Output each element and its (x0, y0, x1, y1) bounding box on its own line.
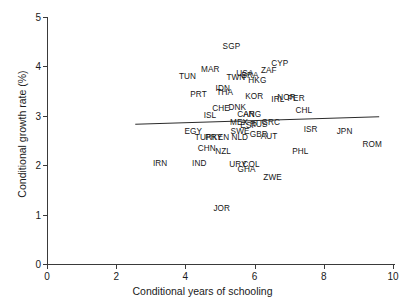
x-tick-mark (393, 265, 394, 269)
data-point-label: ZAF (261, 66, 277, 75)
data-point-label: HKG (248, 76, 266, 85)
y-tick-label: 3 (29, 110, 41, 121)
y-tick-mark (43, 116, 47, 117)
y-tick-label: 5 (29, 12, 41, 23)
x-tick-label: 4 (183, 271, 189, 282)
data-point-label: ISL (204, 111, 217, 120)
y-tick-label: 4 (29, 61, 41, 72)
x-tick-mark (255, 265, 256, 269)
x-axis-label: Conditional years of schooling (0, 285, 405, 297)
data-point-label: TWN (226, 72, 245, 81)
y-tick-mark (43, 66, 47, 67)
y-tick-label: 0 (29, 259, 41, 270)
data-point-label: JPN (337, 127, 353, 136)
data-point-label: KOR (245, 92, 263, 101)
x-tick-mark (116, 265, 117, 269)
y-tick-mark (43, 17, 47, 18)
y-tick-label: 2 (29, 160, 41, 171)
data-point-label: MAR (201, 64, 220, 73)
x-tick-label: 6 (252, 271, 258, 282)
data-point-label: AUT (261, 132, 278, 141)
x-tick-label: 2 (113, 271, 119, 282)
y-axis-line (47, 17, 48, 265)
data-point-label: RUS (250, 120, 268, 129)
y-tick-mark (43, 264, 47, 265)
y-tick-label: 1 (29, 209, 41, 220)
plot-area: 0246810 012345 SGPCYPMARZAFUSATUNBRATWNH… (0, 0, 405, 302)
data-point-label: NZL (215, 146, 231, 155)
x-tick-mark (324, 265, 325, 269)
x-tick-label: 8 (321, 271, 327, 282)
data-point-label: CHL (295, 105, 312, 114)
data-point-label: ZWE (263, 173, 282, 182)
x-tick-label: 10 (387, 271, 398, 282)
x-tick-label: 0 (44, 271, 50, 282)
data-point-label: IRL (271, 94, 284, 103)
y-tick-mark (43, 165, 47, 166)
y-axis-label: Conditional growth rate (%) (16, 49, 28, 219)
data-point-label: CHN (198, 143, 216, 152)
x-tick-mark (47, 265, 48, 269)
data-point-label: TUN (179, 72, 196, 81)
x-tick-mark (185, 265, 186, 269)
data-point-label: ROM (363, 140, 382, 149)
data-point-label: THA (217, 87, 234, 96)
data-point-label: PRT (190, 89, 207, 98)
data-point-label: PHL (292, 147, 308, 156)
data-point-label: KEN (212, 133, 229, 142)
data-point-label: ISR (304, 125, 318, 134)
data-point-label: IND (192, 158, 206, 167)
data-point-label: NLD (231, 132, 248, 141)
y-tick-mark (43, 215, 47, 216)
data-point-label: GHA (238, 165, 256, 174)
x-axis-line (47, 264, 395, 265)
scatter-plot-figure: 0246810 012345 SGPCYPMARZAFUSATUNBRATWNH… (0, 0, 405, 302)
data-point-label: JOR (213, 204, 230, 213)
data-point-label: SGP (223, 42, 241, 51)
data-point-label: IRN (153, 159, 167, 168)
